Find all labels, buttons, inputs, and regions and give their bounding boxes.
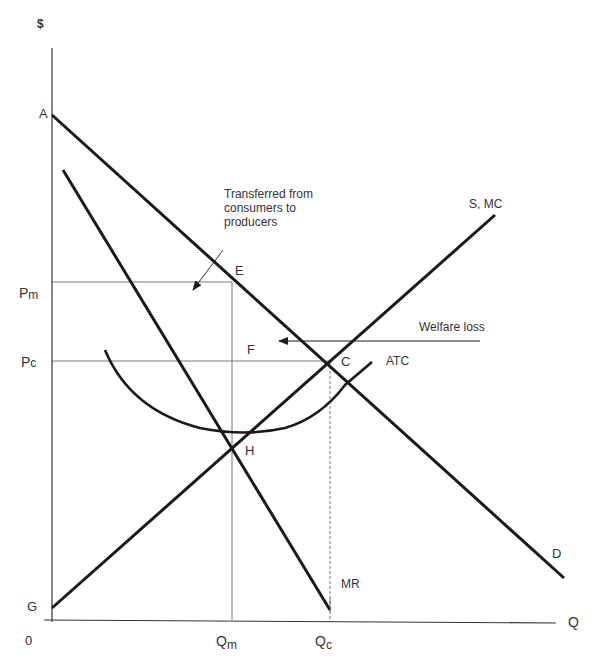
transfer-annotation: Transferred from consumers to producers (224, 187, 313, 229)
qm-main: Q (216, 633, 227, 649)
atc-curve (105, 350, 372, 433)
quantity-label-qm: Qm (216, 634, 237, 648)
pm-main: P (19, 285, 28, 301)
qm-sub: m (227, 638, 237, 652)
curve-label-demand: D (552, 547, 561, 560)
point-label-a: A (39, 107, 48, 120)
welfare-loss-label: Welfare loss (419, 320, 485, 334)
pm-sub: m (28, 288, 38, 302)
price-label-pc: Pc (21, 355, 36, 369)
demand-curve (52, 115, 564, 578)
point-label-h: H (245, 444, 254, 457)
point-label-e: E (235, 264, 244, 277)
marginal-revenue-curve (63, 170, 330, 610)
pc-sub: c (30, 356, 36, 370)
point-label-c: C (341, 355, 350, 368)
curve-label-atc: ATC (386, 355, 409, 367)
point-label-g: G (27, 600, 37, 613)
y-axis-label: $ (37, 18, 44, 30)
qc-main: Q (315, 633, 326, 649)
price-label-pm: Pm (19, 286, 38, 300)
transfer-line-3: producers (224, 215, 313, 229)
origin-label: 0 (25, 634, 32, 647)
diagram-canvas (0, 0, 602, 663)
curve-label-supply-mc: S, MC (469, 198, 502, 210)
pc-main: P (21, 354, 30, 370)
transfer-line-1: Transferred from (224, 187, 313, 201)
curve-label-mr: MR (341, 578, 360, 590)
point-label-f: F (247, 343, 255, 356)
x-axis-label: Q (568, 615, 579, 629)
supply-mc-curve (52, 215, 495, 608)
quantity-label-qc: Qc (315, 634, 332, 648)
qc-sub: c (326, 638, 332, 652)
x-axis (44, 620, 556, 623)
transfer-line-2: consumers to (224, 201, 313, 215)
